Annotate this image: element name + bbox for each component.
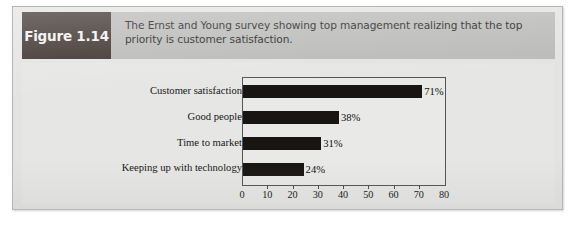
axis-tick-label: 10 — [262, 189, 272, 200]
figure-body: Customer satisfactionGood peopleTime to … — [22, 63, 555, 204]
category-label: Time to market — [117, 137, 242, 149]
plot-area: 71%38%31%24% — [242, 77, 446, 186]
figure-number-label: Figure 1.14 — [24, 28, 109, 44]
bar-chart: Customer satisfactionGood peopleTime to … — [22, 63, 555, 204]
category-label: Good people — [117, 111, 242, 123]
figure-number-box: Figure 1.14 — [22, 12, 111, 59]
bar-value-label: 31% — [323, 138, 342, 149]
axis-tick-label: 40 — [338, 189, 348, 200]
figure-header: Figure 1.14 The Ernst and Young survey s… — [22, 12, 555, 59]
axis-tick-label: 80 — [439, 189, 449, 200]
bar-value-label: 24% — [306, 164, 325, 175]
axis-tick-label: 60 — [388, 189, 398, 200]
bar — [243, 137, 321, 150]
axis-tick-label: 50 — [363, 189, 373, 200]
figure-container: Figure 1.14 The Ernst and Young survey s… — [12, 6, 563, 210]
bar — [243, 111, 339, 124]
axis-tick-label: 30 — [313, 189, 323, 200]
category-label: Customer satisfaction — [117, 85, 242, 97]
category-axis-labels: Customer satisfactionGood peopleTime to … — [117, 79, 242, 183]
axis-tick-label: 0 — [239, 189, 244, 200]
bar — [243, 163, 304, 176]
axis-tick-label: 70 — [414, 189, 424, 200]
bar-value-label: 71% — [424, 86, 443, 97]
figure-caption: The Ernst and Young survey showing top m… — [111, 12, 555, 59]
axis-tick-label: 20 — [287, 189, 297, 200]
category-label: Keeping up with technology — [117, 162, 242, 174]
bar — [243, 85, 422, 98]
bar-value-label: 38% — [341, 112, 360, 123]
